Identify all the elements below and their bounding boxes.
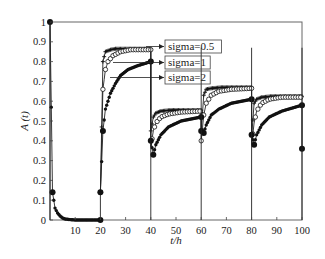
- y-tick-label: 0.4: [33, 135, 47, 146]
- legend-label: sigma=1: [168, 56, 206, 68]
- x-tick-label: 30: [120, 225, 131, 236]
- arrow-icon: [159, 60, 164, 65]
- availability-chart: 10203040506070809010000.10.20.30.40.50.6…: [0, 0, 325, 259]
- y-tick-label: 0.5: [33, 116, 46, 127]
- y-tick-label: 0.3: [33, 155, 46, 166]
- x-tick-label: 70: [221, 225, 232, 236]
- arrow-icon: [159, 75, 164, 80]
- x-tick-label: 100: [294, 225, 310, 236]
- x-tick-label: 80: [246, 225, 257, 236]
- legend-label: sigma=0.5: [168, 40, 215, 52]
- x-tick-label: 10: [70, 225, 81, 236]
- x-tick-label: 40: [146, 225, 157, 236]
- legend: sigma=0.5sigma=1sigma=2: [110, 40, 221, 84]
- y-tick-label: 0.1: [33, 195, 46, 206]
- x-tick-label: 60: [196, 225, 207, 236]
- x-tick-label: 20: [95, 225, 106, 236]
- y-tick-label: 0.7: [33, 76, 46, 87]
- y-tick-label: 1: [41, 17, 46, 28]
- y-tick-label: 0.9: [33, 36, 46, 47]
- y-tick-label: 0.6: [33, 96, 46, 107]
- x-tick-label: 90: [272, 225, 283, 236]
- legend-label: sigma=2: [168, 71, 206, 83]
- y-axis-label: A (t): [18, 111, 31, 132]
- y-tick-label: 0.2: [33, 175, 46, 186]
- x-axis-label: t/h: [170, 234, 182, 246]
- y-tick-label: 0.8: [33, 56, 46, 67]
- arrow-icon: [159, 44, 164, 49]
- y-tick-label: 0: [41, 215, 46, 226]
